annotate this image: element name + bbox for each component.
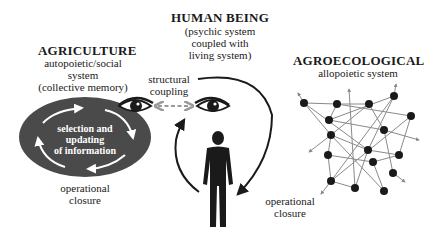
person-icon [203,131,233,227]
loop-text-3: of information [40,146,130,157]
loop-text-2: updating [40,135,130,146]
human-closure-1: operational [250,196,330,208]
loop-text-1: selection and [40,124,130,135]
agroecological-title: AGROECOLOGICAL [293,54,423,68]
agroecological-subtitle: allopoietic system [293,68,423,80]
human-desc-1: (psychic system [170,26,270,38]
operational-closure-arrow [175,120,199,192]
coupling-label-1: structural [139,74,199,86]
agriculture-closure-1: operational [40,183,130,195]
agriculture-closure-2: closure [40,195,130,207]
coupling-label-2: coupling [139,86,199,98]
agriculture-desc-1: autopoietic/social [28,58,138,70]
human-desc-3: living system) [170,50,270,62]
human-title: HUMAN BEING [170,11,270,25]
human-closure-2: closure [250,208,330,220]
agriculture-desc-3: (collective memory) [28,82,138,94]
operational-closure-arrow [198,78,272,195]
eye-icon [195,98,229,112]
human-desc-2: coupled with [170,38,270,50]
agriculture-desc-2: system [28,70,138,82]
network-graph [298,84,419,194]
agriculture-title: AGRICULTURE [38,44,128,58]
